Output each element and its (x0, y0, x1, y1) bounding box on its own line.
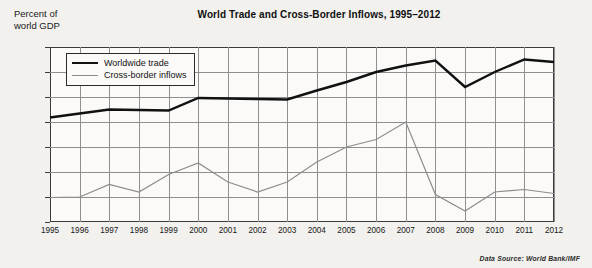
x-tick-label: 2012 (534, 226, 574, 235)
data-source-note: Data Source: World Bank/IMF (480, 255, 580, 262)
y-tick-mark (45, 222, 50, 223)
legend-item-cross-border-inflows: Cross-border inflows (72, 69, 187, 81)
series-line-cross-border-inflows (50, 122, 554, 211)
legend: Worldwide trade Cross-border inflows (66, 53, 195, 86)
gridline-vertical (554, 47, 555, 222)
chart-title: World Trade and Cross-Border Inflows, 19… (0, 9, 592, 20)
chart-root: Percent of world GDP World Trade and Cro… (0, 0, 592, 268)
legend-label-cross-border-inflows: Cross-border inflows (104, 70, 187, 80)
legend-item-worldwide-trade: Worldwide trade (72, 57, 187, 69)
plot-area: 05101520253035 1995199619971998199920002… (50, 47, 554, 222)
legend-swatch-cross-border-inflows (72, 75, 98, 76)
legend-label-worldwide-trade: Worldwide trade (104, 58, 169, 68)
legend-swatch-worldwide-trade (72, 62, 98, 64)
